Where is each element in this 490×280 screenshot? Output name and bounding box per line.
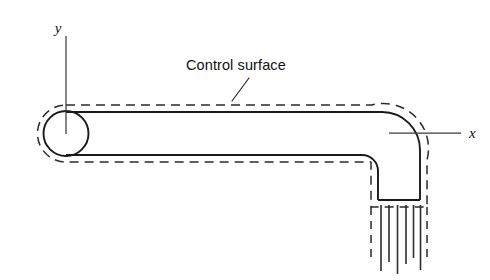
- control-surface-label: Control surface: [186, 57, 286, 73]
- figure-container: y x Control surface: [0, 0, 490, 280]
- control-surface-leader-line: [232, 78, 249, 101]
- x-axis-label: x: [468, 125, 476, 141]
- control-surface-jet-extension: [371, 207, 427, 262]
- y-axis-label: y: [53, 20, 62, 36]
- pipe-elbow-control-surface-diagram: y x Control surface: [0, 0, 490, 280]
- jet-streamlines: [381, 205, 421, 274]
